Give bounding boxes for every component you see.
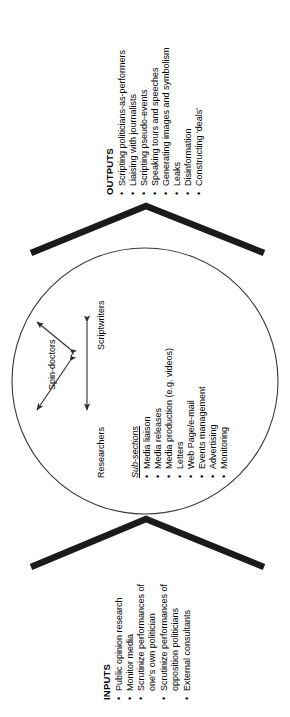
list-item: •Disinformation <box>183 128 195 195</box>
list-item: •Scripting pseudo-events <box>139 89 151 195</box>
inputs-heading: INPUTS <box>101 664 112 700</box>
bullet-icon: • <box>125 691 137 700</box>
flow-diagram: OUTPUTS •Scripting politicians-as-perfor… <box>0 0 290 717</box>
bullet-icon: • <box>136 691 148 700</box>
list-item: •Liaising with journalists <box>128 94 140 195</box>
list-item: •Scripting politicians-as-performers <box>117 50 129 195</box>
list-item: •Scrutinize performances of <box>136 584 148 700</box>
list-item: •Letters <box>175 441 187 478</box>
bullet-icon: • <box>182 691 194 700</box>
bullet-icon: • <box>114 691 126 700</box>
list-item: •External consultants <box>182 610 194 700</box>
list-item: •Media liaison <box>142 416 154 478</box>
outputs-heading: OUTPUTS <box>104 148 115 195</box>
inputs-chevron-arrow <box>0 505 290 575</box>
list-item: •Speaking tours and speeches <box>150 67 162 195</box>
chevron-stroke <box>31 519 264 567</box>
bullet-icon: • <box>159 691 171 700</box>
list-item: •Events management <box>197 386 209 478</box>
bullet-icon: • <box>164 469 176 478</box>
scan-artifact <box>6 2 13 11</box>
bullet-icon: • <box>142 469 154 478</box>
list-item: •Monitoring <box>219 427 231 478</box>
list-item: •Media production (e.g. videos) <box>164 348 176 478</box>
list-item-continuation: opposition politicians <box>170 608 182 700</box>
bullet-icon: • <box>175 469 187 478</box>
list-item: •Scrutinize performances of <box>159 584 171 700</box>
list-item: •Web Page/e-mail <box>186 400 198 478</box>
bullet-icon: • <box>208 469 220 478</box>
list-item: •Constructing 'deals' <box>194 108 206 195</box>
list-item: •Public opinion research <box>114 597 126 700</box>
list-item: •Media releases <box>153 408 165 478</box>
bullet-icon: • <box>219 469 231 478</box>
bullet-spacer <box>170 691 182 700</box>
bullet-spacer <box>147 691 159 700</box>
bullet-icon: • <box>186 469 198 478</box>
list-item: •Advertising <box>208 424 220 478</box>
subsections-heading: Sub-sections <box>130 426 140 478</box>
connector-spin-researchers <box>37 361 70 410</box>
connector-spin-scriptwriters <box>37 322 70 349</box>
bullet-icon: • <box>197 469 209 478</box>
list-item-continuation: one's own politician <box>147 613 159 700</box>
list-item: •Generating images and symbolism <box>161 47 173 195</box>
list-item: •Monitor media <box>125 634 137 700</box>
bullet-icon: • <box>153 469 165 478</box>
